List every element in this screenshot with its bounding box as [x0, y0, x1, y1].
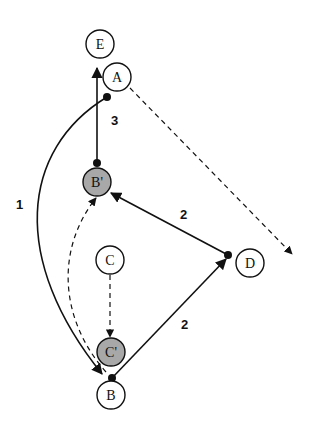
edge-bprime-to-e [93, 68, 101, 167]
node-c: C [96, 246, 124, 274]
node-c-label: C [105, 253, 114, 268]
node-bprime-label: B' [91, 175, 103, 190]
node-e: E [86, 30, 114, 58]
edge-origin-dot [93, 159, 101, 167]
edge-a-dashed-right [130, 88, 292, 254]
node-e-label: E [96, 37, 105, 52]
node-bprime: B' [83, 168, 111, 196]
node-b: B [97, 381, 125, 409]
directed-graph: 1 3 2 2 E A B' C D C' B [0, 0, 309, 431]
edge-origin-dot [224, 251, 232, 259]
edge-a-to-b [37, 93, 111, 374]
edge-b-to-d [108, 259, 226, 382]
node-cprime: C' [97, 338, 125, 366]
edge-label-3: 3 [111, 113, 118, 128]
edge-origin-dot [103, 93, 111, 101]
edge-d-to-bprime [111, 193, 232, 259]
node-a: A [103, 63, 131, 91]
node-d: D [236, 249, 264, 277]
node-b-label: B [106, 388, 115, 403]
node-cprime-label: C' [105, 345, 117, 360]
node-d-label: D [245, 256, 255, 271]
node-a-label: A [112, 70, 123, 85]
edge-label-2-upper: 2 [180, 207, 187, 222]
edge-label-1: 1 [16, 197, 23, 212]
edge-label-2-lower: 2 [181, 317, 188, 332]
